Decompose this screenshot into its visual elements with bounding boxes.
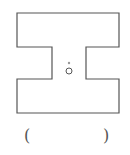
- answer-close-paren: ): [103, 128, 109, 144]
- answer-open-paren: (: [24, 128, 30, 144]
- diagram-canvas: [0, 0, 130, 155]
- center-point-o: [66, 68, 72, 74]
- center-dot: [68, 62, 70, 64]
